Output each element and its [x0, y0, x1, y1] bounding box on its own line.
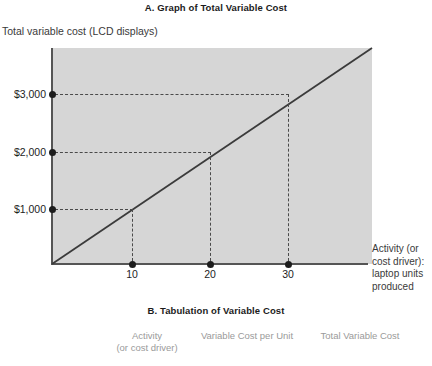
y-marker-1000 — [49, 206, 56, 213]
guide-line-20 — [210, 152, 211, 261]
x-axis-title-line-2: cost driver): — [372, 256, 432, 269]
figure-root: A. Graph of Total Variable Cost Total va… — [0, 0, 432, 366]
variable-cost-chart: $3,000 $2,000 $1,000 10 20 30 Activity (… — [0, 0, 432, 300]
table-column-header-total-variable-cost-line-1: Total Variable Cost — [305, 330, 415, 342]
panel-b-title: B. Tabulation of Variable Cost — [0, 305, 432, 316]
y-tick-label-1000: $1,000 — [0, 203, 46, 215]
total-variable-cost-line — [0, 0, 432, 300]
x-marker-10 — [129, 261, 136, 268]
x-tick-label-30: 30 — [268, 268, 308, 280]
x-tick-label-10: 10 — [112, 268, 152, 280]
table-column-header-activity-line-2: (or cost driver) — [97, 342, 197, 354]
x-tick-label-20: 20 — [190, 268, 230, 280]
guide-line-10 — [132, 209, 133, 261]
x-axis-title-line-4: produced — [372, 281, 432, 294]
x-marker-30 — [285, 261, 292, 268]
table-column-header-total-variable-cost: Total Variable Cost — [305, 330, 415, 342]
table-column-header-activity: Activity (or cost driver) — [97, 330, 197, 354]
table-column-header-activity-line-1: Activity — [97, 330, 197, 342]
guide-line-2000 — [55, 152, 211, 153]
x-axis-title-line-3: laptop units — [372, 268, 432, 281]
table-column-header-variable-cost-per-unit: Variable Cost per Unit — [192, 330, 302, 342]
guide-line-30 — [288, 94, 289, 261]
y-marker-3000 — [49, 91, 56, 98]
y-marker-2000 — [49, 149, 56, 156]
variable-cost-table: Activity (or cost driver) Variable Cost … — [0, 330, 432, 366]
guide-line-1000 — [55, 209, 133, 210]
x-marker-20 — [207, 261, 214, 268]
y-tick-label-2000: $2,000 — [0, 146, 46, 158]
y-tick-label-3000: $3,000 — [0, 88, 46, 100]
x-axis-title: Activity (or cost driver): laptop units … — [372, 243, 432, 293]
guide-line-3000 — [55, 94, 289, 95]
x-axis-title-line-1: Activity (or — [372, 243, 432, 256]
table-column-header-variable-cost-per-unit-line-1: Variable Cost per Unit — [192, 330, 302, 342]
